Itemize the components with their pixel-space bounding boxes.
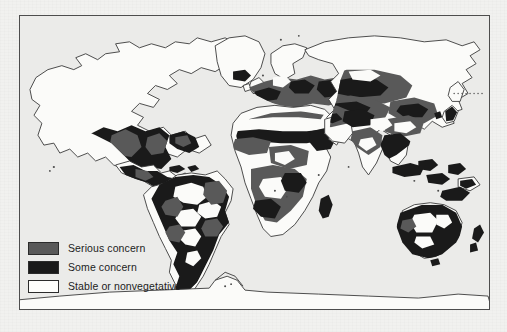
map-legend: Serious concern Some concern Stable or n… bbox=[28, 239, 181, 296]
legend-label-serious-concern: Serious concern bbox=[68, 243, 145, 254]
legend-swatch-serious-concern bbox=[28, 242, 59, 255]
legend-label-stable-or-nonvegetative: Stable or nonvegetative bbox=[68, 281, 181, 292]
legend-swatch-stable-or-nonvegetative bbox=[28, 280, 59, 293]
map-frame: .land { fill:#fbfbf9; stroke:#3a3a3a; st… bbox=[19, 15, 490, 310]
legend-item-some-concern: Some concern bbox=[28, 258, 181, 276]
legend-item-serious-concern: Serious concern bbox=[28, 239, 181, 257]
page-background: .land { fill:#fbfbf9; stroke:#3a3a3a; st… bbox=[0, 0, 507, 332]
legend-item-stable-or-nonvegetative: Stable or nonvegetative bbox=[28, 277, 181, 295]
legend-swatch-some-concern bbox=[28, 261, 59, 274]
legend-label-some-concern: Some concern bbox=[68, 262, 137, 273]
